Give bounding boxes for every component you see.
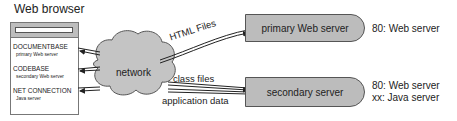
secondary-port-web: 80: Web server — [372, 80, 440, 92]
secondary-server-name: secondary server — [267, 87, 344, 98]
class-files-label: class files — [173, 73, 214, 84]
primary-server-node: primary Web server — [245, 14, 365, 42]
network-label: network — [116, 67, 151, 78]
application-data-label: application data — [162, 95, 229, 106]
secondary-server-node: secondary server — [245, 77, 365, 107]
primary-server-name: primary Web server — [261, 23, 348, 34]
primary-port: 80: Web server — [372, 23, 440, 35]
network-cloud-icon — [94, 31, 176, 95]
secondary-port-java: xx: Java server — [372, 92, 439, 104]
